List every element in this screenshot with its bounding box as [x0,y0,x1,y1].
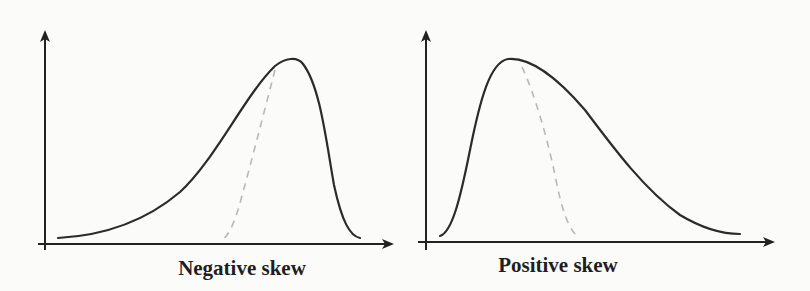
dashed-reference-curve [222,70,275,240]
negative-skew-panel [38,32,392,250]
positive-skew-panel [418,32,773,250]
skewness-figure [0,0,810,291]
negative-skew-caption: Negative skew [178,256,306,281]
distribution-curve [440,59,740,236]
distribution-curve [58,59,360,238]
positive-skew-caption: Positive skew [498,253,618,278]
